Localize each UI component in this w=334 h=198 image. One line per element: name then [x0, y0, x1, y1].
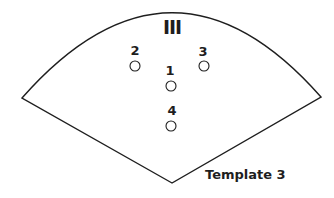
sector-label: III [163, 16, 181, 38]
position-circle [166, 121, 176, 131]
sector-outline [22, 13, 321, 183]
position-circle [166, 81, 176, 91]
position-label: 1 [165, 63, 174, 78]
position-label: 3 [198, 44, 207, 59]
position-label: 4 [167, 103, 176, 118]
position-4: 4 [166, 103, 177, 131]
position-1: 1 [165, 63, 176, 91]
position-circle [130, 61, 140, 71]
position-circle [199, 61, 209, 71]
position-label: 2 [130, 43, 139, 58]
position-3: 3 [198, 44, 209, 71]
template-diagram: III 2 3 1 4 Template 3 [0, 0, 334, 198]
template-caption: Template 3 [205, 167, 286, 182]
position-2: 2 [130, 43, 140, 71]
